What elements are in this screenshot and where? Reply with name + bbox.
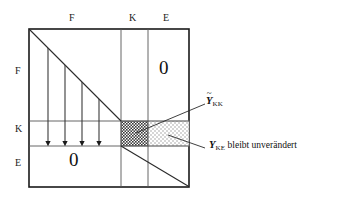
zero-block-ef: 0 [69, 150, 79, 169]
ykk-subscript: KK [212, 100, 223, 108]
block-matrix-figure: F K E F K E 0 0 Y ~ KK YKE bleibt unverä… [0, 0, 340, 199]
row-header-e: E [15, 158, 21, 168]
tilde-accent-icon: ~ [207, 89, 212, 98]
annotation-ykk: Y ~ KK [206, 96, 223, 108]
row-header-k: K [15, 124, 23, 134]
matrix-diagram-svg [0, 0, 340, 199]
zero-block-fe: 0 [159, 58, 169, 77]
yke-text: bleibt unverändert [225, 140, 297, 150]
yke-subscript: KE [215, 144, 225, 152]
ykk-symbol-wrap: Y ~ [206, 96, 212, 107]
row-header-f: F [15, 66, 21, 76]
column-header-f: F [69, 13, 75, 23]
block-ke-shaded [148, 121, 189, 146]
block-kk-shaded [121, 121, 148, 146]
column-header-e: E [163, 13, 169, 23]
annotation-yke: YKE bleibt unverändert [209, 140, 297, 152]
column-header-k: K [129, 13, 137, 23]
